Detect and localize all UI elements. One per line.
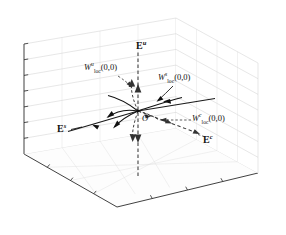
invariant-manifold-figure: Eu Es Ec Wuloc(0,0) Wsloc(0,0) Wcloc(0,0… (0, 0, 286, 235)
eigenspace-label-unstable: Eu (136, 40, 146, 51)
manifold-label-unstable: Wuloc(0,0) (84, 62, 117, 74)
eigenspace-label-center: Ec (203, 134, 213, 145)
manifold-label-stable: Wsloc(0,0) (158, 72, 190, 84)
manifold-label-center: Wcloc(0,0) (192, 113, 225, 125)
origin-label: O (142, 114, 148, 123)
fixed-point-marker (137, 110, 139, 112)
eigenspace-label-stable: Es (57, 123, 66, 134)
